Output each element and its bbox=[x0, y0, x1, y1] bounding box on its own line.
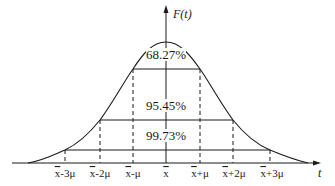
tick-minus-1: x-μ bbox=[125, 167, 140, 179]
tick-plus-2: x+2μ bbox=[222, 167, 245, 179]
region-label-68: 68.27% bbox=[146, 47, 186, 62]
region-label-95: 95.45% bbox=[146, 98, 186, 113]
x-axis-arrow-icon bbox=[313, 161, 321, 166]
normal-distribution-diagram: 68.27% 95.45% 99.73% F(t) t x-3μ x-2μ x-… bbox=[0, 0, 335, 186]
dashed-guides bbox=[65, 69, 270, 163]
tick-plus-3: x+3μ bbox=[260, 167, 283, 179]
tick-labels: x-3μ x-2μ x-μ x x+μ x+2μ x+3μ bbox=[55, 167, 284, 179]
tick-plus-1: x+μ bbox=[191, 167, 209, 179]
x-axis-title: t bbox=[318, 166, 322, 180]
tick-minus-3: x-3μ bbox=[55, 167, 76, 179]
y-axis-title: F(t) bbox=[172, 7, 192, 21]
tick-mean: x bbox=[163, 167, 169, 179]
y-axis-arrow-icon bbox=[164, 5, 169, 13]
tick-minus-2: x-2μ bbox=[90, 167, 111, 179]
region-label-99: 99.73% bbox=[146, 128, 186, 143]
